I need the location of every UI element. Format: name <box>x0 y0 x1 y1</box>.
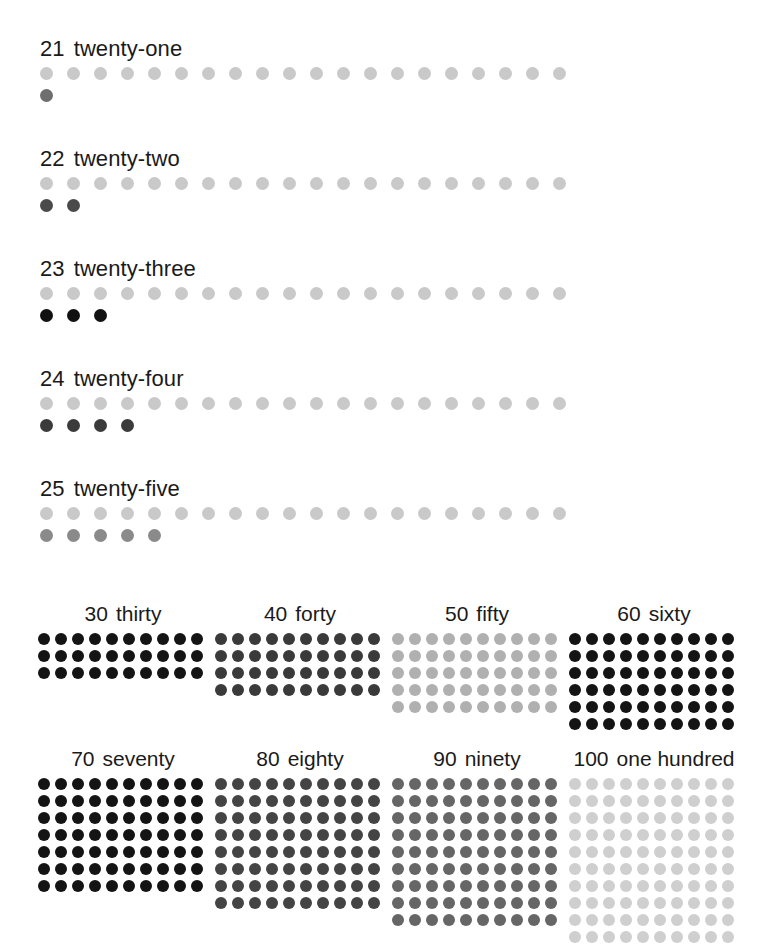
tens-group-dot-grid <box>569 778 739 947</box>
counting-dot <box>392 795 404 807</box>
counting-dot <box>215 650 227 662</box>
counting-dot <box>409 795 421 807</box>
number-word: fifty <box>476 602 509 625</box>
counting-dot <box>317 829 329 841</box>
counting-dot <box>38 829 50 841</box>
counting-dot <box>40 177 53 190</box>
counting-dot <box>123 650 135 662</box>
counting-dot <box>499 287 512 300</box>
counting-dot <box>55 880 67 892</box>
counting-dot <box>174 846 186 858</box>
number-word: sixty <box>649 602 691 625</box>
counting-dot <box>445 507 458 520</box>
counting-dot <box>392 914 404 926</box>
counting-dot <box>671 863 683 875</box>
counting-dot <box>569 863 581 875</box>
counting-dot <box>569 846 581 858</box>
counting-dot <box>215 667 227 679</box>
counting-dot <box>654 914 666 926</box>
counting-dot <box>722 812 734 824</box>
base-ten-dot-row <box>40 397 580 419</box>
base-ten-dot-row <box>40 507 580 529</box>
counting-dot <box>123 667 135 679</box>
counting-dot <box>460 778 472 790</box>
counting-dot <box>123 795 135 807</box>
counting-dot <box>722 701 734 713</box>
counting-dot <box>637 897 649 909</box>
counting-dot <box>494 812 506 824</box>
counting-dot <box>283 829 295 841</box>
counting-dot <box>337 397 350 410</box>
counting-dot <box>55 667 67 679</box>
counting-dot <box>494 667 506 679</box>
counting-dot <box>511 914 523 926</box>
counting-dot <box>499 177 512 190</box>
counting-dot <box>334 633 346 645</box>
counting-dot <box>409 778 421 790</box>
counting-dot <box>283 863 295 875</box>
counting-dot <box>637 812 649 824</box>
counting-dot <box>317 880 329 892</box>
counting-dot <box>586 829 598 841</box>
counting-dot <box>722 829 734 841</box>
number-digit: 24 <box>40 366 65 391</box>
counting-dot <box>249 897 261 909</box>
counting-dot <box>511 667 523 679</box>
counting-dot <box>654 880 666 892</box>
counting-dot <box>140 812 152 824</box>
counting-dot <box>392 829 404 841</box>
counting-dot <box>688 897 700 909</box>
counting-dot <box>528 897 540 909</box>
counting-dot <box>526 397 539 410</box>
counting-dot <box>310 177 323 190</box>
counting-dot <box>266 829 278 841</box>
counting-dot <box>300 846 312 858</box>
counting-dot <box>266 863 278 875</box>
counting-dot <box>603 931 615 943</box>
tens-group-dot-grid <box>569 633 739 735</box>
counting-dot <box>72 812 84 824</box>
counting-dot <box>175 287 188 300</box>
counting-dot <box>494 863 506 875</box>
counting-dot <box>409 914 421 926</box>
counting-dot <box>620 718 632 730</box>
counting-dot <box>671 897 683 909</box>
counting-dot <box>511 701 523 713</box>
counting-dot <box>443 880 455 892</box>
base-ten-dot-row <box>40 67 580 89</box>
counting-dot <box>569 931 581 943</box>
counting-dot <box>106 812 118 824</box>
counting-dot <box>229 67 242 80</box>
counting-dot <box>191 650 203 662</box>
counting-dot <box>300 863 312 875</box>
counting-dot <box>545 914 557 926</box>
counting-dot <box>426 846 438 858</box>
counting-dot <box>528 846 540 858</box>
counting-dot <box>351 778 363 790</box>
counting-dot <box>569 684 581 696</box>
counting-dot <box>553 397 566 410</box>
counting-dot <box>191 863 203 875</box>
counting-dot <box>121 67 134 80</box>
counting-dot <box>67 199 80 212</box>
number-word: twenty-one <box>74 36 183 61</box>
counting-dot <box>654 829 666 841</box>
counting-dot <box>409 633 421 645</box>
counting-dot <box>283 684 295 696</box>
counting-dot <box>249 633 261 645</box>
counting-dot <box>266 667 278 679</box>
number-digit: 22 <box>40 146 65 171</box>
number-word: forty <box>295 602 336 625</box>
counting-dot <box>472 177 485 190</box>
counting-dot <box>620 931 632 943</box>
counting-dot <box>89 863 101 875</box>
counting-dot <box>445 287 458 300</box>
counting-dot <box>426 829 438 841</box>
counting-dot <box>722 931 734 943</box>
counting-dot <box>157 880 169 892</box>
counting-dot <box>603 880 615 892</box>
counting-dot <box>202 507 215 520</box>
counting-dot <box>477 701 489 713</box>
counting-dot <box>148 67 161 80</box>
number-word: seventy <box>102 747 174 770</box>
